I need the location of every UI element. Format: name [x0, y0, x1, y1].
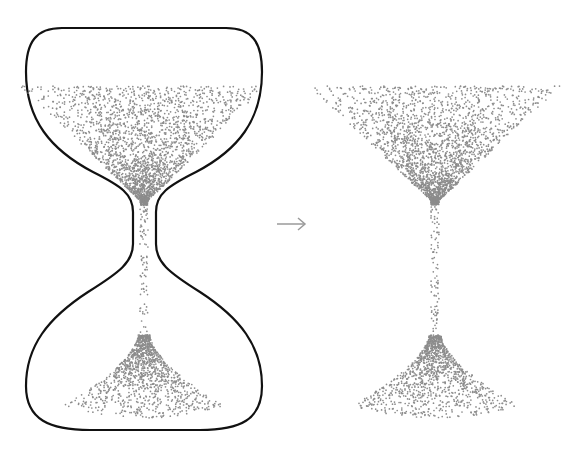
- hourglass-with-sand: [21, 28, 262, 430]
- hourglass-diagram: [0, 0, 572, 453]
- sand-particles-isolated: [314, 85, 560, 418]
- diagram-canvas: [0, 0, 572, 453]
- sand-particles-in-hourglass: [21, 85, 258, 418]
- arrow-icon: [277, 218, 305, 230]
